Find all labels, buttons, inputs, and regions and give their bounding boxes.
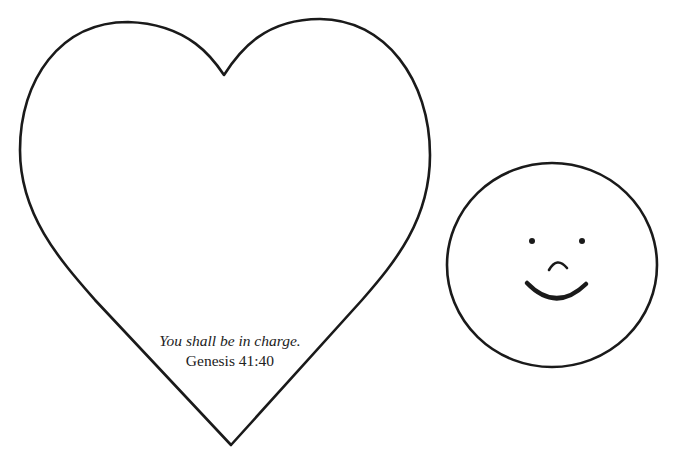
right-eye-icon — [579, 238, 585, 244]
verse-reference: Genesis 41:40 — [130, 351, 330, 371]
verse-quote: You shall be in charge. — [130, 331, 330, 351]
bible-verse: You shall be in charge. Genesis 41:40 — [130, 331, 330, 371]
left-eye-icon — [529, 238, 535, 244]
smiley-face — [447, 163, 657, 367]
coloring-page-canvas — [0, 0, 673, 462]
heart-shape — [20, 19, 430, 445]
heart-outline-icon — [20, 19, 430, 445]
